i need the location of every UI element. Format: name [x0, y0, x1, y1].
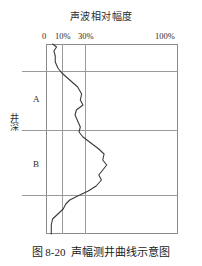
x-tick-label-0: 0 [42, 32, 46, 41]
chart-title: 声波相对幅度 [0, 8, 202, 23]
zone-divider-line-top [22, 71, 178, 72]
x-tick-label-30: 30% [78, 32, 94, 41]
figure-caption: 图 8-20声幅测井曲线示意图 [0, 243, 202, 259]
gridline-30-percent [85, 44, 86, 234]
x-tick-label-10: 10% [55, 32, 71, 41]
zone-divider-line-middle [22, 130, 178, 131]
acoustic-amplitude-log-figure: 声波相对幅度 0 10% 30% 100% A B 井深 图 8-20声幅测井曲… [0, 0, 202, 266]
zone-label-a: A [33, 95, 40, 104]
plot-frame [46, 44, 178, 234]
depth-axis-label: 井深 [8, 114, 21, 133]
gridline-10-percent [62, 44, 63, 234]
zone-divider-line-bottom [22, 195, 178, 196]
x-tick-label-100: 100% [155, 32, 175, 41]
zone-label-b: B [33, 160, 39, 169]
figure-caption-text: 声幅测井曲线示意图 [71, 246, 170, 258]
figure-caption-number: 图 8-20 [32, 246, 66, 258]
